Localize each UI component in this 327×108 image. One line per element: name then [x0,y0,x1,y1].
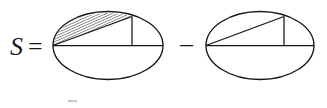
right-chord-line [206,17,284,46]
equation-diagram: S = – [0,0,327,108]
equals-sign: = [28,32,43,61]
area-symbol-S: S [10,32,23,61]
right-term-figure [206,12,314,80]
minus-sign: – [179,29,194,58]
scan-artifact-mark [68,100,77,102]
figure-canvas: S = – [0,0,327,108]
left-term-figure [53,12,163,80]
